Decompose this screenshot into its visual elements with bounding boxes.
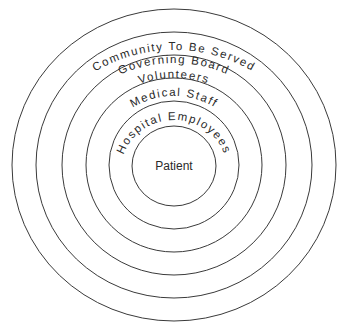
label-volunteers: Volunteers: [137, 68, 212, 86]
label-patient: Patient: [155, 159, 193, 173]
label-hospital-employees: Hospital Employees: [114, 110, 234, 156]
concentric-circles-diagram: Community To Be Served Governing Board V…: [0, 0, 342, 329]
diagram-canvas: Community To Be Served Governing Board V…: [0, 0, 342, 329]
label-medical-staff: Medical Staff: [128, 86, 221, 109]
